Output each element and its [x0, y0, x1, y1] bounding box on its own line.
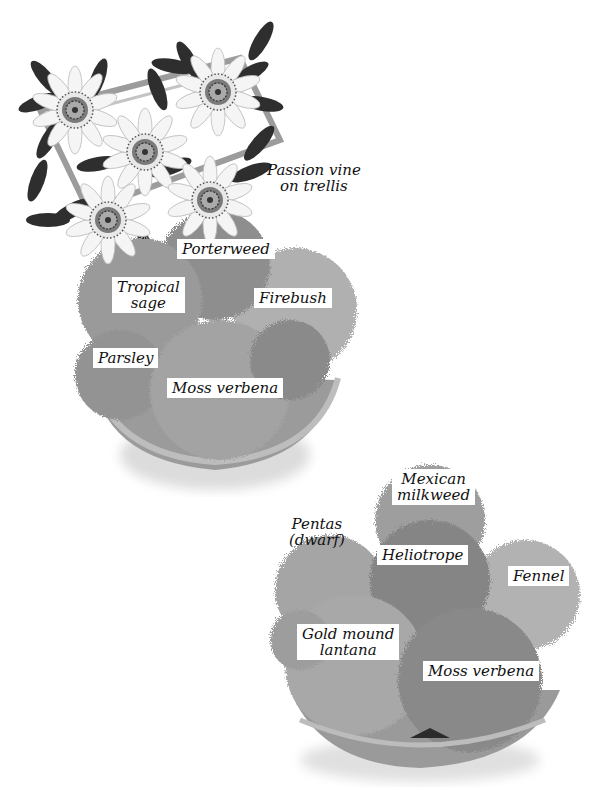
label-mexican-milkweed: Mexican milkweed — [392, 469, 475, 505]
label-firebush: Firebush — [254, 288, 332, 308]
label-pentas: Pentas (dwarf) — [284, 514, 350, 550]
label-moss-verbena-1: Moss verbena — [167, 378, 283, 398]
label-fennel: Fennel — [508, 566, 569, 586]
label-parsley: Parsley — [93, 348, 158, 368]
label-passion-vine: Passion vine on trellis — [262, 160, 366, 196]
parsley-plant — [75, 330, 165, 420]
label-gold-mound-lantana: Gold mound lantana — [297, 624, 399, 660]
label-tropical-sage: Tropical sage — [112, 277, 185, 313]
label-moss-verbena-2: Moss verbena — [423, 661, 539, 681]
label-heliotrope: Heliotrope — [377, 545, 468, 565]
label-porterweed: Porterweed — [177, 239, 275, 259]
